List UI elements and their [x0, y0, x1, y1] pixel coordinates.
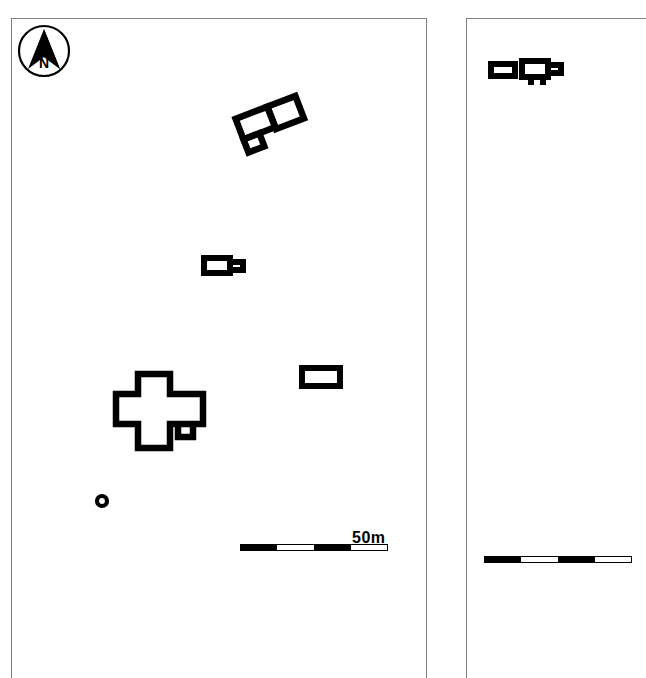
- rectangular-building-with-annex: [199, 252, 255, 286]
- scale-bar-segment: [277, 544, 314, 551]
- site-plan-left-panel: [11, 18, 427, 678]
- north-arrow: N: [17, 24, 71, 78]
- rectangular-building-east: [297, 362, 351, 396]
- scale-bar-label-left: 50m: [352, 529, 386, 547]
- panel-right-canvas: [467, 19, 646, 678]
- site-plan-right-panel: [466, 18, 646, 678]
- circular-feature-well: [90, 489, 114, 513]
- panel-left-canvas: [12, 19, 426, 678]
- rotated-building-complex: [225, 88, 321, 166]
- scale-bar-right: [484, 556, 632, 563]
- scale-bar-track: [484, 556, 632, 563]
- north-arrow-label: N: [39, 55, 49, 71]
- scale-bar-segment: [595, 556, 632, 563]
- cruciform-building: [108, 366, 218, 460]
- scale-bar-segment: [521, 556, 558, 563]
- rectangular-building-with-annex-right: [517, 55, 571, 95]
